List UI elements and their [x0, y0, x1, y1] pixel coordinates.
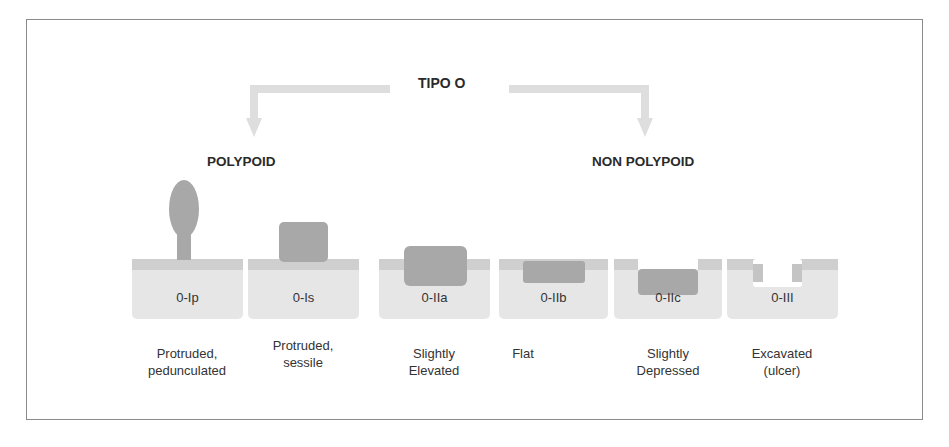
type-panel-0-IIb: 0-IIb: [499, 259, 608, 319]
type-code: 0-IIc: [614, 290, 722, 305]
type-code: 0-IIa: [379, 290, 490, 305]
type-code: 0-Is: [248, 290, 359, 305]
type-code: 0-IIb: [499, 290, 608, 305]
caption-line: sessile: [233, 354, 373, 371]
caption-0-IIb: Flat: [483, 345, 563, 362]
caption-line: Protruded,: [233, 337, 373, 354]
type-panel-0-Is: 0-Is: [248, 259, 359, 319]
caption-0-Is: Protruded, sessile: [233, 337, 373, 371]
type-code: 0-III: [727, 290, 838, 305]
caption-line: Flat: [483, 345, 563, 362]
type-panel-0-III: 0-III: [727, 259, 838, 319]
type-panel-0-IIc: 0-IIc: [614, 259, 722, 319]
caption-line: Excavated: [712, 345, 852, 362]
type-panel-0-Ip: 0-Ip: [132, 259, 243, 319]
type-panel-0-IIa: 0-IIa: [379, 259, 490, 319]
caption-line: Elevated: [364, 362, 504, 379]
caption-line: (ulcer): [712, 362, 852, 379]
lesion-illustrations: [0, 0, 949, 447]
type-code: 0-Ip: [132, 290, 243, 305]
caption-0-III: Excavated (ulcer): [712, 345, 852, 379]
